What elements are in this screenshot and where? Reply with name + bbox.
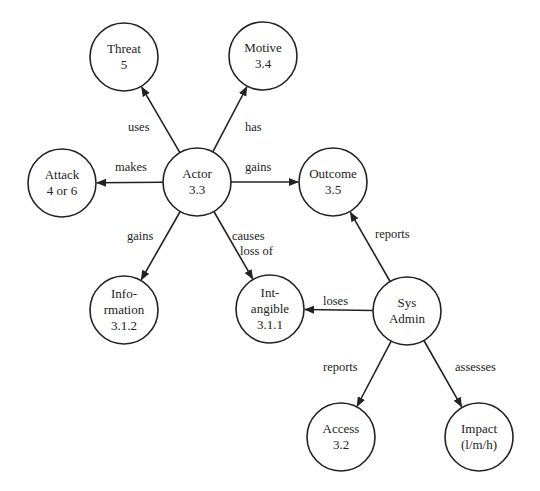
node-intangible: Int-angible3.1.1 — [236, 275, 304, 343]
edge-label-actor-to-motive: has — [245, 120, 262, 134]
edge-sysadmin-to-outcome — [350, 212, 390, 281]
concept-diagram: Threat5Motive3.4Attack4 or 6Actor3.3Outc… — [0, 0, 540, 491]
edge-actor-to-motive — [213, 87, 247, 152]
node-sysadmin: SysAdmin — [373, 277, 441, 345]
edge-sysadmin-to-intangible — [305, 310, 373, 311]
edge-label-sysadmin-to-intangible: loses — [323, 294, 348, 308]
node-attack: Attack4 or 6 — [28, 149, 96, 217]
node-access: Access3.2 — [307, 403, 375, 471]
edge-label-actor-to-attack: makes — [115, 160, 147, 174]
edge-label-actor-to-information: gains — [127, 229, 154, 243]
edges-layer — [97, 87, 462, 407]
edge-label-actor-to-threat: uses — [128, 120, 150, 134]
node-impact: Impact(l/m/h) — [445, 403, 513, 471]
node-threat: Threat5 — [90, 23, 158, 91]
node-actor: Actor3.3 — [163, 148, 231, 216]
node-label: Impact(l/m/h) — [461, 421, 497, 452]
edge-label-sysadmin-to-impact: assesses — [455, 360, 496, 374]
edge-label-sysadmin-to-outcome: reports — [375, 227, 410, 241]
node-motive: Motive3.4 — [229, 22, 297, 90]
edge-label-actor-to-outcome: gains — [245, 160, 272, 174]
node-outcome: Outcome3.5 — [299, 148, 367, 216]
edge-label-sysadmin-to-access: reports — [323, 360, 358, 374]
node-label: Attack4 or 6 — [45, 167, 80, 198]
edge-sysadmin-to-access — [357, 341, 391, 406]
node-information: Info-rmation3.1.2 — [90, 276, 158, 344]
edge-actor-to-information — [141, 212, 180, 280]
